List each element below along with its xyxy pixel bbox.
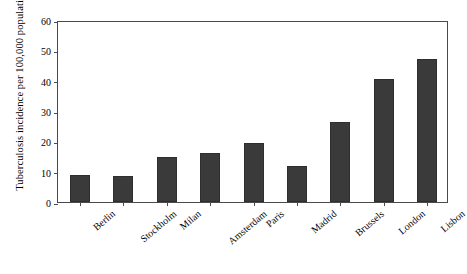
x-axis-tick-label: Stockholm bbox=[138, 208, 178, 244]
y-axis-tick-label: 40 bbox=[41, 78, 54, 88]
bar bbox=[287, 166, 307, 202]
y-axis-tick-mark bbox=[54, 143, 58, 144]
x-axis-tick-label: Berlin bbox=[91, 208, 117, 232]
y-axis-tick: 40 bbox=[41, 78, 58, 88]
bar bbox=[330, 122, 350, 202]
bar bbox=[113, 176, 133, 202]
y-axis-tick-label: 20 bbox=[41, 138, 54, 148]
y-axis-tick: 60 bbox=[41, 17, 58, 27]
y-axis-tick: 50 bbox=[41, 47, 58, 57]
y-axis-tick-mark bbox=[54, 204, 58, 205]
x-axis-tick-label: Lisbon bbox=[439, 208, 467, 234]
x-axis-tick-mark bbox=[167, 202, 168, 206]
y-axis-tick-label: 60 bbox=[41, 17, 54, 27]
y-axis-tick-mark bbox=[54, 173, 58, 174]
y-axis-tick: 0 bbox=[46, 199, 58, 209]
plot-area: 0102030405060 bbox=[57, 21, 448, 203]
x-axis-tick-mark bbox=[427, 202, 428, 206]
y-axis-tick-mark bbox=[54, 52, 58, 53]
bar bbox=[374, 79, 394, 202]
bar bbox=[244, 143, 264, 202]
x-axis-tick-mark bbox=[123, 202, 124, 206]
y-axis-tick: 30 bbox=[41, 108, 58, 118]
x-axis-tick-label: London bbox=[396, 208, 427, 236]
y-axis-tick-mark bbox=[54, 113, 58, 114]
y-axis-tick: 10 bbox=[41, 169, 58, 179]
x-axis-tick-label: Brussels bbox=[353, 208, 386, 238]
x-axis-tick-label: Amsterdam bbox=[226, 208, 269, 246]
y-axis-tick: 20 bbox=[41, 138, 58, 148]
y-axis-tick-mark bbox=[54, 22, 58, 23]
y-axis-tick-label: 30 bbox=[41, 108, 54, 118]
x-axis-tick-mark bbox=[80, 202, 81, 206]
bar bbox=[417, 59, 437, 202]
x-axis-tick-label: Paris bbox=[263, 208, 285, 229]
y-axis-title: Tuberculosis incidence per 100,000 popul… bbox=[8, 0, 30, 246]
bar bbox=[200, 153, 220, 202]
x-axis-tick-mark bbox=[340, 202, 341, 206]
x-axis-tick-mark bbox=[297, 202, 298, 206]
bar bbox=[70, 175, 90, 202]
x-axis-tick-mark bbox=[384, 202, 385, 206]
x-axis-tick-mark bbox=[210, 202, 211, 206]
y-axis-tick-label: 10 bbox=[41, 169, 54, 179]
bar bbox=[157, 157, 177, 203]
y-axis-tick-mark bbox=[54, 82, 58, 83]
x-axis-tick-label: Madrid bbox=[309, 208, 339, 235]
y-axis-tick-label: 50 bbox=[41, 47, 54, 57]
x-axis-tick-mark bbox=[254, 202, 255, 206]
y-axis-tick-label: 0 bbox=[46, 199, 54, 209]
y-axis-title-text: Tuberculosis incidence per 100,000 popul… bbox=[14, 0, 25, 191]
x-axis-tick-label: Milan bbox=[177, 208, 202, 232]
